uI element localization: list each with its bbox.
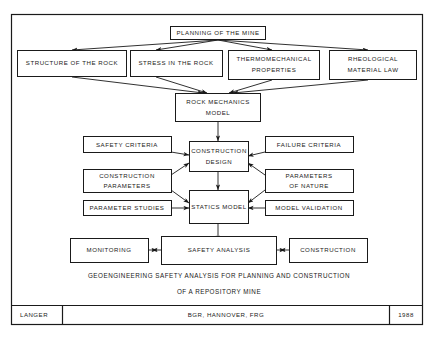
caption-line-1: GEOENGINEERING SAFETY ANALYSIS FOR PLANN… <box>88 272 350 279</box>
node-parametersnature-label-line2: OF NATURE <box>289 182 329 189</box>
connector-rheological-to-rockmechanics <box>233 80 368 93</box>
node-constructionparams-label-line1: CONSTRUCTION <box>99 172 155 179</box>
node-thermomechanical-label-line2: PROPERTIES <box>252 66 297 73</box>
node-failurecriteria-label: FAILURE CRITERIA <box>277 141 342 148</box>
node-rheological-label-line2: MATERIAL LAW <box>347 66 398 73</box>
node-construction-design[interactable]: CONSTRUCTION DESIGN <box>190 142 249 172</box>
node-construction[interactable]: CONSTRUCTION <box>290 239 368 263</box>
node-safetycriteria-label: SAFETY CRITERIA <box>96 141 158 148</box>
node-stress-label: STRESS IN THE ROCK <box>138 59 213 66</box>
node-constructiondesign-label-line2: DESIGN <box>206 158 233 165</box>
node-parameters-of-nature[interactable]: PARAMETERS OF NATURE <box>266 170 354 193</box>
node-construction-label: CONSTRUCTION <box>300 246 356 253</box>
connector-safetycriteria-to-constructiondesign <box>171 152 189 155</box>
node-failure-criteria[interactable]: FAILURE CRITERIA <box>266 137 354 153</box>
node-rock-mechanics-model[interactable]: ROCK MECHANICS MODEL <box>176 94 261 122</box>
flowchart-canvas: PLANNING OF THE MINE STRUCTURE OF THE RO… <box>0 0 434 339</box>
connector-constructionparams-to-staticsmodel <box>171 190 189 203</box>
connector-structure-to-rockmechanics <box>72 77 203 93</box>
connector-planning-to-stress <box>156 40 218 50</box>
node-structure-label: STRUCTURE OF THE ROCK <box>26 59 118 66</box>
node-model-validation[interactable]: MODEL VALIDATION <box>266 201 354 216</box>
node-stress-in-the-rock[interactable]: STRESS IN THE ROCK <box>131 51 223 77</box>
node-monitoring[interactable]: MONITORING <box>71 239 149 263</box>
node-monitoring-label: MONITORING <box>87 246 132 253</box>
connector-parametersnature-to-constructiondesign <box>248 163 265 175</box>
node-structure-of-the-rock[interactable]: STRUCTURE OF THE ROCK <box>18 51 127 77</box>
node-construction-parameters[interactable]: CONSTRUCTION PARAMETERS <box>84 170 172 193</box>
node-parametersnature-label-line1: PARAMETERS <box>285 172 332 179</box>
node-rockmechanics-label-line2: MODEL <box>206 109 230 116</box>
node-staticsmodel-label: STATICS MODEL <box>191 203 246 210</box>
connector-planning-to-rheological <box>218 40 368 50</box>
footer-organization: BGR, HANNOVER, FRG <box>188 311 264 318</box>
diagram-page: PLANNING OF THE MINE STRUCTURE OF THE RO… <box>0 0 434 339</box>
node-rheological-material-law[interactable]: RHEOLOGICAL MATERIAL LAW <box>330 51 417 80</box>
node-thermomechanical-properties[interactable]: THERMOMECHANICAL PROPERTIES <box>229 51 320 80</box>
connector-planning-to-structure <box>72 40 218 50</box>
node-planning-of-the-mine[interactable]: PLANNING OF THE MINE <box>171 27 266 40</box>
node-rockmechanics-label-line1: ROCK MECHANICS <box>186 98 250 105</box>
connector-failurecriteria-to-constructiondesign <box>248 152 265 156</box>
connector-parametersnature-to-staticsmodel <box>248 190 265 203</box>
caption-line-2: OF A REPOSITORY MINE <box>177 288 261 295</box>
node-parameter-studies[interactable]: PARAMETER STUDIES <box>84 201 172 216</box>
node-thermomechanical-label-line1: THERMOMECHANICAL <box>236 55 311 62</box>
node-constructiondesign-label-line1: CONSTRUCTION <box>191 147 247 154</box>
connector-constructionparams-to-constructiondesign <box>171 163 189 175</box>
node-safetyanalysis-label: SAFETY ANALYSIS <box>188 246 251 253</box>
node-planning-label: PLANNING OF THE MINE <box>176 29 259 36</box>
footer-year: 1988 <box>398 311 414 318</box>
node-parameterstudies-label: PARAMETER STUDIES <box>90 204 165 211</box>
node-safety-criteria[interactable]: SAFETY CRITERIA <box>84 137 172 153</box>
node-constructionparams-label-line2: PARAMETERS <box>103 182 150 189</box>
node-safety-analysis[interactable]: SAFETY ANALYSIS <box>162 237 277 265</box>
footer-author: LANGER <box>20 311 48 318</box>
node-rheological-label-line1: RHEOLOGICAL <box>348 55 398 62</box>
node-modelvalidation-label: MODEL VALIDATION <box>275 204 342 211</box>
node-statics-model[interactable]: STATICS MODEL <box>190 191 249 224</box>
